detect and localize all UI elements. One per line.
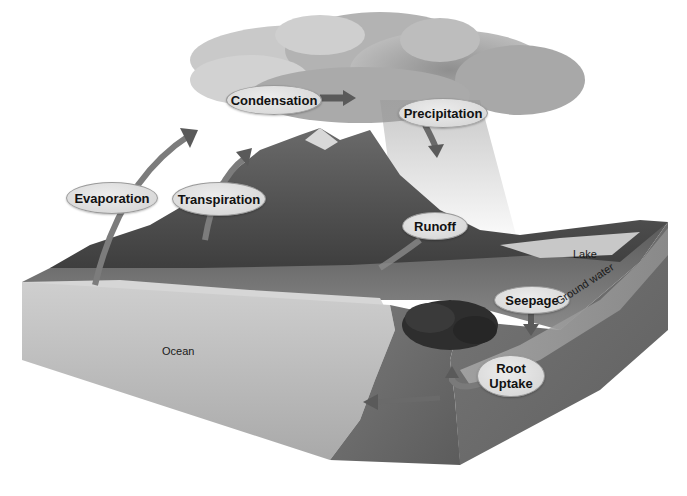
transpiration-label: Transpiration — [172, 182, 266, 216]
runoff-label: Runoff — [402, 212, 468, 240]
precipitation-label: Precipitation — [398, 98, 488, 128]
evaporation-label: Evaporation — [66, 182, 158, 214]
tree-cluster — [402, 300, 498, 350]
root-uptake-label: Root Uptake — [477, 355, 545, 397]
root-uptake-line1: Root — [496, 361, 526, 376]
condensation-label: Condensation — [226, 85, 322, 115]
lake-label: Lake — [573, 248, 597, 260]
ocean-label: Ocean — [162, 345, 194, 357]
root-uptake-line2: Uptake — [489, 376, 532, 391]
ocean-face — [22, 282, 395, 460]
